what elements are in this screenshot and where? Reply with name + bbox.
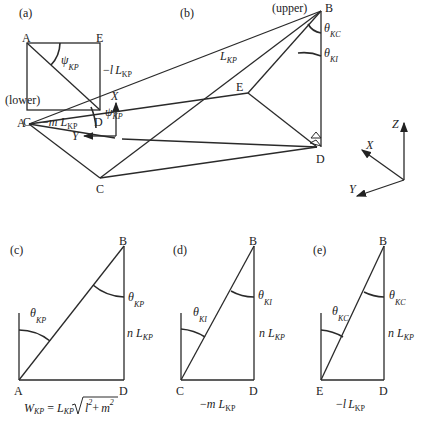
theta-left-arc-d <box>181 329 205 337</box>
edge-cd <box>100 147 317 178</box>
base-label-e: −lLKP <box>336 397 366 413</box>
edge-eb <box>248 11 321 93</box>
psi-arc <box>51 43 60 65</box>
theta-right-label-e: θKC <box>389 288 406 307</box>
panel-e: (e) B E D θKC θKC nLKP −lLKP <box>313 234 414 413</box>
point-b-d: B <box>249 234 257 248</box>
psi-label-b: ψKP <box>105 105 123 121</box>
point-c-d: C <box>176 384 184 398</box>
edge-ae <box>29 93 248 124</box>
hyp-eb <box>321 246 384 380</box>
point-e: E <box>96 31 103 45</box>
panel-c: (c) B A D θKP θKP nLKP WKP=LKP l2+m2 <box>10 234 153 416</box>
point-a: A <box>22 31 31 45</box>
y-axis-arrow-b <box>357 180 404 196</box>
theta-left-label-d: θKI <box>193 305 207 324</box>
edge-ac <box>29 124 100 178</box>
theta-left-label-e: θKC <box>332 304 349 323</box>
edge-lkp-label: LKP <box>219 49 237 65</box>
edge-ad-back <box>122 139 317 147</box>
theta-kc-label: θKC <box>324 21 341 39</box>
panel-a-tag: (a) <box>19 6 32 20</box>
height-label-d: nLKP <box>259 326 285 342</box>
point-d-b: D <box>316 152 325 166</box>
point-b-c: B <box>119 234 127 248</box>
theta-left-arc-e <box>321 330 343 337</box>
edge-ed <box>248 93 317 147</box>
point-a-c: A <box>14 384 23 398</box>
point-a-b: A <box>17 116 26 130</box>
point-e-b: E <box>236 80 243 94</box>
point-b-e: B <box>379 234 387 248</box>
panel-b: (b) (upper) (lower) B A E C D LKP ψKP θK… <box>5 1 404 196</box>
theta-right-label-d: θKI <box>258 288 272 307</box>
upper-label: (upper) <box>272 1 307 15</box>
side-ed-label: −lLKP <box>103 63 133 79</box>
height-label-c: nLKP <box>127 326 153 342</box>
hyp-cb <box>181 246 254 380</box>
theta-ki-label: θKI <box>324 46 338 64</box>
point-d-d: D <box>249 384 258 398</box>
theta-right-arc-d <box>231 291 254 297</box>
psi-label: ψKP <box>61 53 79 72</box>
panel-b-tag: (b) <box>180 6 194 20</box>
panel-e-tag: (e) <box>313 243 326 257</box>
lower-label: (lower) <box>5 93 40 107</box>
panel-d: (d) B C D θKI θKI nLKP −mLKP <box>173 234 285 413</box>
edge-cb <box>100 11 321 178</box>
base-label-d: −mLKP <box>200 397 236 413</box>
theta-right-arc <box>93 285 124 297</box>
height-label-e: nLKP <box>388 326 414 342</box>
width-formula: WKP=LKP l2+m2 <box>24 397 118 416</box>
theta-kc-arc <box>308 24 321 33</box>
theta-ki-arc <box>298 53 321 56</box>
point-d-c: D <box>119 384 128 398</box>
z-axis-label: Z <box>392 117 399 131</box>
point-c-b: C <box>96 182 104 196</box>
point-e-e: E <box>316 384 323 398</box>
right-angle-mark-1 <box>311 132 321 138</box>
y-axis-label-b: Y <box>349 182 357 196</box>
point-b: B <box>325 1 333 15</box>
point-d-e: D <box>379 384 388 398</box>
theta-left-arc <box>19 330 50 341</box>
diagram-canvas: (a) A E C D ψKP −lLKP −mLKP X Y (b) (upp… <box>0 0 426 434</box>
panel-c-tag: (c) <box>10 243 23 257</box>
theta-right-label: θKP <box>128 290 144 309</box>
x-axis-arrow-b <box>362 150 404 180</box>
svg-text:WKP=LKP: WKP=LKP <box>24 401 74 416</box>
theta-right-arc-e <box>364 292 384 297</box>
panel-d-tag: (d) <box>173 243 187 257</box>
x-axis-label-b: X <box>365 138 374 152</box>
svg-text:l2+m2: l2+m2 <box>85 398 114 415</box>
theta-left-label: θKP <box>30 306 46 325</box>
